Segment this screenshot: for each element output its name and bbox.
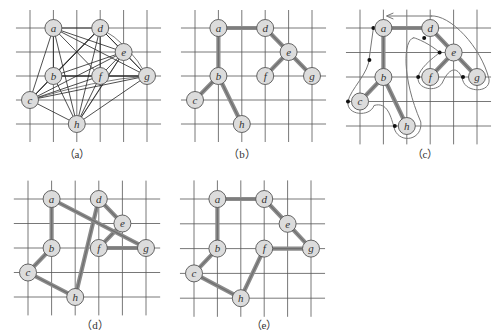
svg-text:b: b — [216, 70, 222, 82]
svg-text:h: h — [238, 292, 244, 304]
caption-c: （c） — [412, 145, 439, 161]
node-b: b — [209, 240, 226, 257]
node-b: b — [43, 240, 60, 257]
node-e: e — [445, 44, 462, 61]
panel-a: adebfgch — [16, 10, 161, 142]
node-d: d — [90, 191, 107, 208]
node-f: f — [422, 69, 439, 86]
caption-e: （e） — [251, 316, 278, 332]
node-d: d — [422, 20, 439, 37]
node-d: d — [257, 20, 274, 37]
node-g: g — [138, 240, 155, 257]
walk-dot — [367, 58, 371, 62]
panel-b: adebfgch — [181, 10, 326, 142]
node-c: c — [187, 92, 204, 109]
node-e: e — [115, 44, 132, 61]
node-c: c — [20, 264, 37, 281]
svg-text:b: b — [51, 70, 57, 82]
panel-d: adebfgch — [14, 181, 160, 316]
node-a: a — [209, 191, 226, 208]
edge-a-c — [30, 28, 53, 100]
svg-text:e: e — [451, 46, 456, 58]
node-g: g — [469, 69, 486, 86]
node-f: f — [257, 68, 274, 85]
node-c: c — [186, 265, 203, 282]
walk-dot — [393, 124, 397, 128]
svg-text:c: c — [193, 94, 198, 106]
node-a: a — [375, 20, 392, 37]
svg-text:b: b — [49, 242, 55, 254]
node-e: e — [114, 215, 131, 232]
svg-text:d: d — [427, 22, 433, 34]
svg-text:a: a — [381, 22, 387, 34]
svg-text:a: a — [215, 193, 221, 205]
node-d: d — [256, 191, 273, 208]
svg-text:e: e — [120, 217, 125, 229]
svg-text:b: b — [381, 71, 387, 83]
caption-d: （d） — [81, 316, 109, 332]
svg-text:c: c — [28, 94, 33, 106]
svg-text:g: g — [144, 70, 150, 82]
panel-c: adebfgch — [346, 10, 491, 145]
svg-text:c: c — [26, 266, 31, 278]
node-a: a — [210, 20, 227, 37]
svg-text:d: d — [96, 193, 102, 205]
node-d: d — [92, 20, 109, 37]
svg-text:c: c — [192, 267, 197, 279]
node-h: h — [398, 118, 415, 135]
node-g: g — [303, 240, 320, 257]
walk-dot — [422, 36, 426, 40]
svg-text:g: g — [309, 70, 315, 82]
node-e: e — [279, 215, 296, 232]
node-h: h — [233, 116, 250, 133]
node-f: f — [92, 68, 109, 85]
svg-text:g: g — [143, 242, 149, 254]
node-h: h — [68, 116, 85, 133]
svg-text:h: h — [74, 118, 80, 130]
node-c: c — [352, 93, 369, 110]
panel-e: adebfgch — [180, 180, 325, 316]
walk-dot — [438, 51, 442, 55]
node-f: f — [256, 240, 273, 257]
svg-text:d: d — [261, 193, 267, 205]
svg-text:a: a — [51, 22, 57, 34]
node-g: g — [304, 68, 321, 85]
svg-text:b: b — [215, 242, 221, 254]
svg-text:d: d — [97, 22, 103, 34]
svg-text:g: g — [474, 71, 480, 83]
walk-dot — [346, 100, 350, 104]
svg-text:h: h — [404, 120, 410, 132]
walk-dot — [416, 75, 420, 79]
node-e: e — [280, 44, 297, 61]
svg-text:d: d — [262, 22, 268, 34]
node-b: b — [210, 68, 227, 85]
node-f: f — [90, 240, 107, 257]
node-a: a — [45, 20, 62, 37]
walk-dot — [461, 75, 465, 79]
svg-text:e: e — [121, 46, 126, 58]
caption-b: （b） — [228, 145, 256, 161]
node-c: c — [22, 92, 39, 109]
svg-text:e: e — [285, 218, 290, 230]
svg-text:e: e — [286, 46, 291, 58]
node-b: b — [45, 68, 62, 85]
node-h: h — [67, 289, 84, 306]
node-g: g — [139, 68, 156, 85]
svg-text:a: a — [216, 22, 222, 34]
svg-text:h: h — [72, 291, 78, 303]
node-h: h — [232, 290, 249, 307]
svg-text:c: c — [358, 95, 363, 107]
diagram-canvas: adebfgchadebfgchadebfgchadebfgchadebfgch — [0, 0, 501, 335]
svg-text:h: h — [239, 118, 245, 130]
caption-a: （a） — [64, 145, 91, 161]
node-a: a — [43, 191, 60, 208]
full-walk-path — [346, 13, 489, 138]
svg-text:a: a — [49, 193, 55, 205]
node-b: b — [375, 69, 392, 86]
svg-text:g: g — [308, 242, 314, 254]
